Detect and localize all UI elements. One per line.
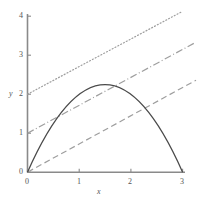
y-tick-label-1: 1 bbox=[19, 129, 23, 137]
y-axis-label: y bbox=[9, 90, 13, 98]
dashed-line bbox=[28, 80, 196, 172]
y-tick-label-4: 4 bbox=[19, 12, 23, 20]
parabola-curve bbox=[28, 85, 183, 173]
dash-dot-line bbox=[28, 42, 197, 133]
x-tick-label-1: 1 bbox=[77, 178, 81, 186]
y-tick-label-3: 3 bbox=[19, 51, 23, 59]
y-tick-label-0: 0 bbox=[19, 168, 23, 176]
x-tick-label-0: 0 bbox=[25, 178, 29, 186]
dotted-line bbox=[28, 12, 182, 94]
y-tick-label-2: 2 bbox=[19, 90, 23, 98]
x-axis-label: x bbox=[97, 188, 101, 196]
plot-area bbox=[0, 0, 199, 201]
x-tick-label-3: 3 bbox=[180, 178, 184, 186]
chart-figure: 4 3 2 1 0 y 0 1 2 3 x bbox=[0, 0, 199, 201]
x-tick-label-2: 2 bbox=[128, 178, 132, 186]
